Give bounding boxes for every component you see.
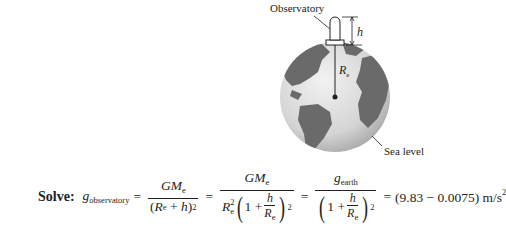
sea-level-label: Sea level bbox=[384, 145, 424, 157]
observatory-label: Observatory bbox=[270, 2, 324, 14]
re-denominator: Re bbox=[264, 205, 275, 224]
observatory-leader-line bbox=[314, 16, 330, 29]
earth-subscript: earth bbox=[341, 177, 358, 187]
e-subscript: e bbox=[182, 185, 186, 195]
e-subscript: e bbox=[272, 212, 276, 222]
re-denominator: Re bbox=[347, 205, 358, 224]
e-subscript: e bbox=[354, 212, 358, 222]
h-symbol: h bbox=[181, 199, 188, 215]
h-over-re: hRe bbox=[347, 191, 358, 224]
h-symbol: h bbox=[350, 191, 356, 205]
sea-level-leader-line bbox=[372, 136, 382, 146]
equals-sign: = bbox=[205, 189, 213, 205]
right-paren: ) bbox=[362, 192, 368, 222]
h-symbol: h bbox=[267, 191, 273, 205]
g-symbol: g bbox=[334, 170, 341, 185]
one: 1 bbox=[327, 199, 334, 215]
plus-sign: + bbox=[170, 199, 178, 215]
globe-diagram bbox=[0, 0, 477, 160]
r-symbol: R bbox=[222, 199, 230, 215]
left-paren: ( bbox=[319, 192, 325, 222]
right-paren: ) bbox=[279, 192, 285, 222]
e-subscript: e bbox=[163, 199, 167, 215]
plus-sign: + bbox=[255, 199, 263, 215]
r-symbol: R bbox=[264, 206, 271, 220]
r-sub-sup: 2e bbox=[230, 198, 234, 216]
fraction-2-numerator: GMe bbox=[243, 170, 272, 190]
g-observatory: gobservatory bbox=[83, 188, 130, 205]
result-value: (9.83 − 0.0075) m/s2 bbox=[395, 187, 506, 206]
equals-sign: = bbox=[133, 189, 141, 205]
e-subscript: e bbox=[230, 207, 234, 216]
square-exponent: 2 bbox=[287, 199, 291, 215]
left-paren: ( bbox=[237, 192, 243, 222]
equals-sign: = bbox=[383, 189, 391, 205]
fraction-3-numerator: gearth bbox=[332, 170, 360, 190]
fraction-1-numerator: GMe bbox=[159, 178, 188, 198]
square-exponent: 2 bbox=[370, 199, 374, 215]
result-exponent: 2 bbox=[502, 187, 506, 197]
plus-sign: + bbox=[337, 199, 345, 215]
earth-center-dot bbox=[333, 95, 338, 100]
radius-label: Re bbox=[339, 63, 349, 79]
fraction-2: GMe R2e ( 1 + hRe )2 bbox=[220, 170, 294, 224]
fraction-2-denominator: R2e ( 1 + hRe )2 bbox=[220, 190, 294, 224]
observatory-building bbox=[326, 17, 344, 45]
gm-symbol: GM bbox=[161, 178, 182, 193]
fraction-3-denominator: ( 1 + hRe )2 bbox=[315, 190, 376, 224]
height-label: h bbox=[357, 25, 363, 40]
e-subscript: e bbox=[266, 177, 270, 187]
one: 1 bbox=[245, 199, 252, 215]
result-text: (9.83 − 0.0075) m/s bbox=[395, 190, 502, 205]
fraction-1-denominator: (Re + h)2 bbox=[148, 198, 198, 215]
earth-observatory-figure: Observatory h Re Sea level bbox=[0, 0, 477, 160]
fraction-1: GMe (Re + h)2 bbox=[148, 178, 198, 215]
solve-equation: Solve: gobservatory = GMe (Re + h)2 = GM… bbox=[38, 160, 506, 233]
h-over-re: hRe bbox=[264, 191, 275, 224]
r-symbol: R bbox=[155, 199, 163, 215]
solve-label: Solve: bbox=[38, 189, 75, 205]
observatory-subscript: observatory bbox=[89, 195, 129, 205]
square-exponent: 2 bbox=[192, 199, 196, 215]
gm-symbol: GM bbox=[245, 170, 266, 185]
equals-sign: = bbox=[301, 189, 309, 205]
fraction-3: gearth ( 1 + hRe )2 bbox=[315, 170, 376, 224]
radius-subscript: e bbox=[346, 71, 349, 79]
